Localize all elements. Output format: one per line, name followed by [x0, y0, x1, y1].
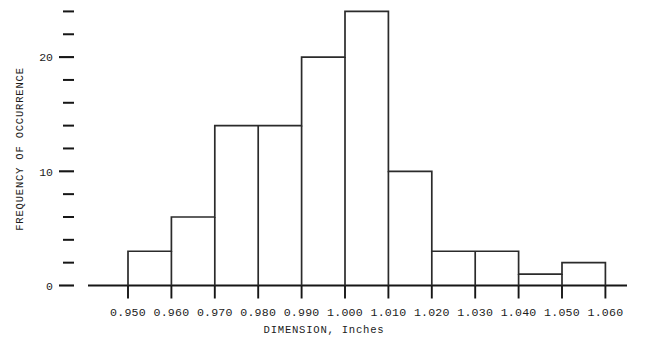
y-axis-tick-label-10: 10 [39, 166, 53, 179]
y-axis-tick-label-20: 20 [39, 51, 53, 64]
histogram-bar-0.980-0.990 [258, 126, 301, 286]
y-axis-tick-label-0: 0 [46, 280, 53, 293]
histogram-figure: 010200.9500.9600.9700.9800.9901.0001.010… [0, 0, 648, 348]
x-axis-tick-label-0.980: 0.980 [240, 306, 276, 319]
histogram-bar-1.010-1.020 [388, 171, 431, 285]
x-axis-tick-label-1.050: 1.050 [544, 306, 580, 319]
x-axis-tick-label-1.000: 1.000 [327, 306, 363, 319]
x-axis-tick-label-1.040: 1.040 [501, 306, 537, 319]
y-axis-title: FREQUENCY OF OCCURRENCE [2, 0, 20, 310]
histogram-bar-1.000-1.010 [345, 11, 388, 285]
y-axis-title-text: FREQUENCY OF OCCURRENCE [14, 4, 26, 294]
histogram-bar-1.050-1.060 [562, 263, 605, 286]
histogram-bar-1.020-1.030 [432, 251, 475, 285]
x-axis-title: DIMENSION, Inches [0, 324, 648, 336]
histogram-bar-0.990-1.000 [302, 57, 345, 285]
histogram-bar-1.030-1.040 [475, 251, 518, 285]
histogram-bar-1.040-1.050 [519, 274, 562, 285]
x-axis-tick-label-0.990: 0.990 [284, 306, 320, 319]
x-axis-tick-label-0.970: 0.970 [197, 306, 233, 319]
x-axis-tick-label-1.030: 1.030 [457, 306, 493, 319]
histogram-bar-0.950-0.960 [128, 251, 171, 285]
histogram-bar-0.970-0.980 [215, 126, 258, 286]
x-axis-tick-label-1.010: 1.010 [371, 306, 407, 319]
x-axis-tick-label-0.950: 0.950 [110, 306, 146, 319]
histogram-bar-0.960-0.970 [171, 217, 214, 286]
x-axis-tick-label-1.020: 1.020 [414, 306, 450, 319]
chart-canvas: 010200.9500.9600.9700.9800.9901.0001.010… [0, 0, 648, 348]
x-axis-tick-label-0.960: 0.960 [154, 306, 190, 319]
x-axis-tick-label-1.060: 1.060 [588, 306, 624, 319]
